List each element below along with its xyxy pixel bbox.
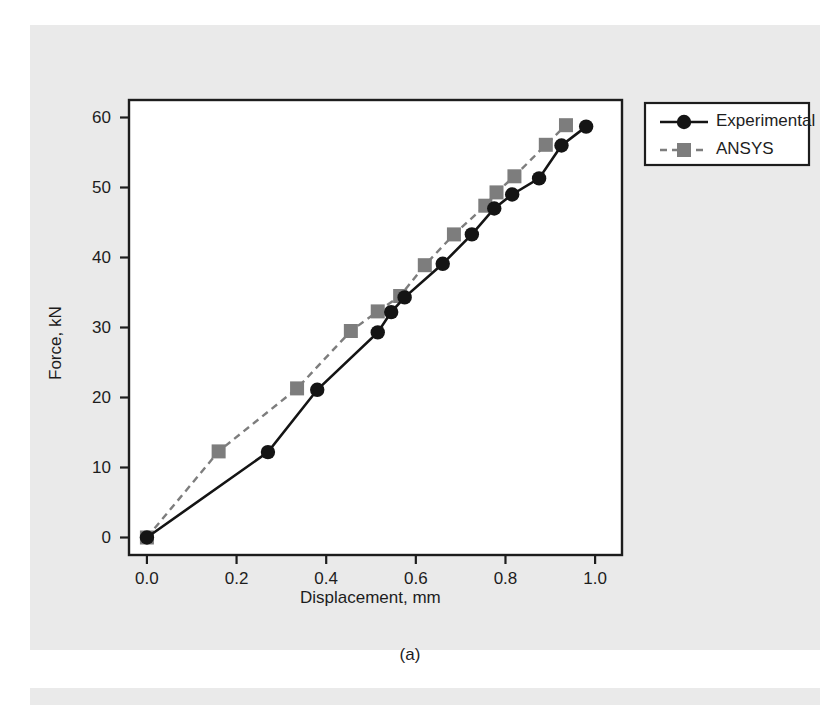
figure-force-displacement: 0102030405060 0.00.20.40.60.81.0 Force, … bbox=[0, 0, 820, 705]
y-tick-label-2: 20 bbox=[71, 388, 111, 408]
x-tick-label-4: 0.8 bbox=[475, 569, 535, 589]
data-point-experimental-11 bbox=[554, 138, 568, 152]
y-tick-label-5: 50 bbox=[71, 178, 111, 198]
y-tick-label-4: 40 bbox=[71, 248, 111, 268]
data-point-experimental-2 bbox=[310, 383, 324, 397]
x-tick-label-2: 0.4 bbox=[296, 569, 356, 589]
data-point-ansys-4 bbox=[371, 304, 385, 318]
y-axis-ticks bbox=[120, 118, 129, 538]
x-tick-label-0: 0.0 bbox=[117, 569, 177, 589]
data-point-experimental-6 bbox=[436, 257, 450, 271]
data-point-ansys-1 bbox=[212, 444, 226, 458]
data-point-ansys-3 bbox=[344, 324, 358, 338]
data-point-experimental-1 bbox=[261, 445, 275, 459]
data-point-experimental-7 bbox=[465, 227, 479, 241]
figure-caption: (a) bbox=[0, 645, 820, 665]
legend-label-experimental: Experimental bbox=[716, 111, 815, 131]
data-point-ansys-11 bbox=[539, 138, 553, 152]
x-axis-ticks bbox=[147, 555, 595, 564]
data-point-experimental-9 bbox=[505, 187, 519, 201]
x-tick-label-5: 1.0 bbox=[565, 569, 625, 589]
data-point-experimental-3 bbox=[371, 325, 385, 339]
data-point-ansys-6 bbox=[418, 258, 432, 272]
data-point-experimental-10 bbox=[532, 171, 546, 185]
x-tick-label-1: 0.2 bbox=[207, 569, 267, 589]
data-point-ansys-2 bbox=[290, 381, 304, 395]
data-point-experimental-0 bbox=[140, 530, 154, 544]
data-point-experimental-12 bbox=[579, 119, 593, 133]
legend-marker-experimental bbox=[677, 115, 691, 129]
y-tick-label-1: 10 bbox=[71, 458, 111, 478]
y-tick-label-6: 60 bbox=[71, 108, 111, 128]
legend-label-ansys: ANSYS bbox=[716, 139, 774, 159]
y-tick-label-3: 30 bbox=[71, 318, 111, 338]
y-tick-label-0: 0 bbox=[71, 528, 111, 548]
x-tick-label-3: 0.6 bbox=[386, 569, 446, 589]
data-point-experimental-5 bbox=[397, 290, 411, 304]
legend-marker-ansys bbox=[677, 143, 691, 157]
data-point-experimental-8 bbox=[487, 201, 501, 215]
data-point-ansys-7 bbox=[447, 227, 461, 241]
data-point-ansys-9 bbox=[490, 185, 504, 199]
data-point-ansys-10 bbox=[507, 169, 521, 183]
data-point-experimental-4 bbox=[384, 305, 398, 319]
x-axis-title: Displacement, mm bbox=[300, 588, 441, 608]
y-axis-title: Force, kN bbox=[46, 306, 66, 380]
data-point-ansys-12 bbox=[559, 118, 573, 132]
